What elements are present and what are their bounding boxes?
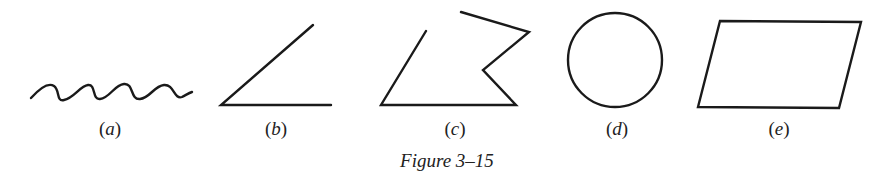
figure-canvas: (a) (b) (c) (d) (e) Figure 3–15 bbox=[0, 0, 888, 182]
angle-shape bbox=[221, 25, 331, 105]
panel-label-a: (a) bbox=[99, 118, 121, 140]
wavy-curve-shape bbox=[31, 84, 192, 100]
panel-label-b: (b) bbox=[265, 118, 287, 140]
circle-shape bbox=[568, 13, 662, 107]
panel-label-e: (e) bbox=[768, 118, 789, 140]
open-polygon-shape bbox=[381, 12, 529, 105]
panel-label-c: (c) bbox=[444, 118, 465, 140]
parallelogram-shape bbox=[698, 21, 861, 108]
figure-caption: Figure 3–15 bbox=[399, 150, 494, 171]
panel-label-d: (d) bbox=[606, 118, 628, 140]
